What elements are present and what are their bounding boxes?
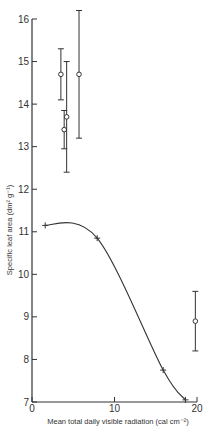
y-tick-label: 16	[18, 14, 30, 25]
open-circle-marker	[59, 72, 64, 77]
axes	[32, 19, 197, 402]
x-axis-title: Mean total daily visible radiation (cal …	[47, 417, 189, 426]
open-circle-marker	[62, 127, 67, 132]
y-tick-labels: 78910111213141516	[18, 14, 30, 408]
y-tick-label: 13	[18, 141, 30, 152]
x-tick-label: 20	[191, 403, 203, 414]
x-tick-label: 0	[29, 403, 35, 414]
y-tick-label: 11	[19, 226, 30, 237]
curve-line	[45, 223, 185, 400]
y-tick-label: 15	[18, 56, 30, 67]
y-tick-label: 12	[18, 184, 30, 195]
chart: 78910111213141516 01020 Specific leaf ar…	[0, 0, 210, 433]
y-tick-label: 14	[18, 99, 30, 110]
open-circle-marker	[193, 319, 198, 324]
open-circle-marker	[64, 115, 69, 120]
y-axis-title: Specific leaf area (dm² g⁻¹)	[5, 184, 14, 275]
data-points	[42, 10, 198, 402]
y-tick-label: 9	[23, 311, 29, 322]
open-circle-marker	[77, 72, 82, 77]
x-tick-label: 10	[109, 403, 121, 414]
x-tick-labels: 01020	[29, 403, 203, 414]
y-tick-label: 10	[18, 269, 30, 280]
y-tick-label: 8	[23, 354, 29, 365]
fitted-curve	[45, 223, 185, 400]
